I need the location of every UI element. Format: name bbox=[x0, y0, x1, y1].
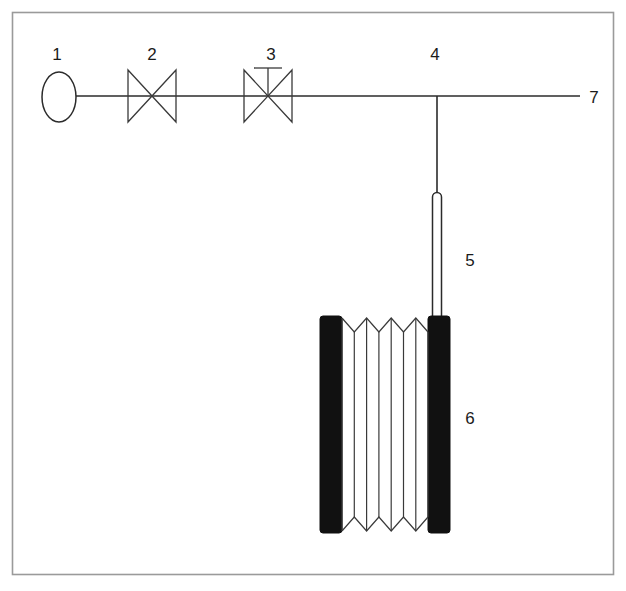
label-3: 3 bbox=[266, 45, 275, 64]
label-5: 5 bbox=[465, 251, 474, 270]
gas-source-vessel bbox=[42, 72, 76, 122]
label-1: 1 bbox=[52, 45, 61, 64]
vertical-probe-tube bbox=[433, 193, 442, 323]
schematic-canvas: 1 2 3 4 5 6 7 bbox=[0, 0, 626, 591]
coil-vertical-runs bbox=[342, 318, 428, 531]
label-2: 2 bbox=[147, 45, 156, 64]
left-insulation-block bbox=[320, 316, 342, 533]
coil-reactor-assembly bbox=[320, 316, 450, 533]
right-insulation-block bbox=[428, 316, 450, 533]
label-4: 4 bbox=[430, 45, 439, 64]
coil-bottom-zigzag bbox=[342, 517, 428, 531]
stem-valve bbox=[244, 68, 292, 122]
coil-top-zigzag bbox=[342, 318, 428, 332]
figure-border-frame bbox=[13, 13, 614, 575]
schematic-figure: 1 2 3 4 5 6 7 bbox=[0, 0, 626, 591]
label-6: 6 bbox=[465, 409, 474, 428]
label-7: 7 bbox=[589, 88, 598, 107]
